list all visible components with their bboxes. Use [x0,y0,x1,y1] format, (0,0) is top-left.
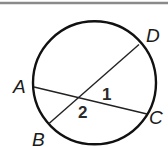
point-label-a: A [12,76,26,97]
angle-label-1: 1 [102,85,111,104]
chord-ac [34,87,147,114]
point-label-d: D [146,25,160,46]
circle-chords-diagram: A B C D 1 2 [0,0,168,147]
point-label-c: C [149,107,163,128]
chord-bd [49,45,139,124]
point-label-b: B [32,129,45,147]
angle-label-2: 2 [78,103,87,122]
